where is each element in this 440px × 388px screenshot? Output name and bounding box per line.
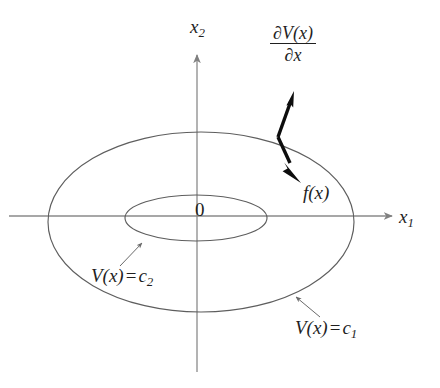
level-set-outer-sub: 1 [351,326,357,341]
lyapunov-level-set-figure: x2 x1 0 ∂V(x) ∂x f(x) V(x)=c2 V(x)=c1 [0,0,440,388]
level-set-inner-v: V [91,265,103,286]
y-axis-label: x2 [190,17,205,40]
figure-canvas [0,0,440,388]
x-axis-label-sub: 1 [407,215,413,230]
origin-label: 0 [195,200,205,219]
level-set-outer-v: V [295,317,307,338]
gradient-numerator-body: V(x) [282,23,313,43]
x-axis-label: x1 [399,207,414,230]
partial-symbol-numerator: ∂ [273,23,282,43]
gradient-denominator: ∂x [270,44,316,64]
vector-field-label: f(x) [303,183,329,202]
level-set-inner-sub: 2 [147,274,153,289]
level-set-inner-equals: = [124,265,139,286]
y-axis-label-sub: 2 [198,25,204,40]
level-set-outer-equals: = [328,317,343,338]
level-set-inner-label: V(x)=c2 [91,266,153,289]
level-set-outer-leader-line [296,297,320,317]
gradient-vector-arrow [278,91,294,137]
vector-field-label-args: (x) [308,182,329,203]
level-set-inner-c: c [138,265,146,286]
level-set-outer-label: V(x)=c1 [295,318,357,341]
level-set-inner-leader-line [120,243,142,266]
gradient-label: ∂V(x) ∂x [270,24,316,64]
vector-field-arrow [278,137,301,183]
gradient-numerator: ∂V(x) [270,24,316,44]
level-set-outer-c: c [342,317,350,338]
level-set-inner-arg: (x) [103,265,124,286]
level-set-outer-arg: (x) [307,317,328,338]
gradient-denominator-body: x [293,45,301,65]
